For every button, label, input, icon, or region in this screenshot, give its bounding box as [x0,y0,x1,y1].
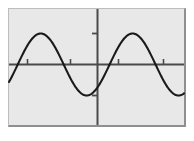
sine-wave-figure [0,0,194,141]
plot-canvas [0,0,194,141]
x-axis-ticks [28,59,164,64]
